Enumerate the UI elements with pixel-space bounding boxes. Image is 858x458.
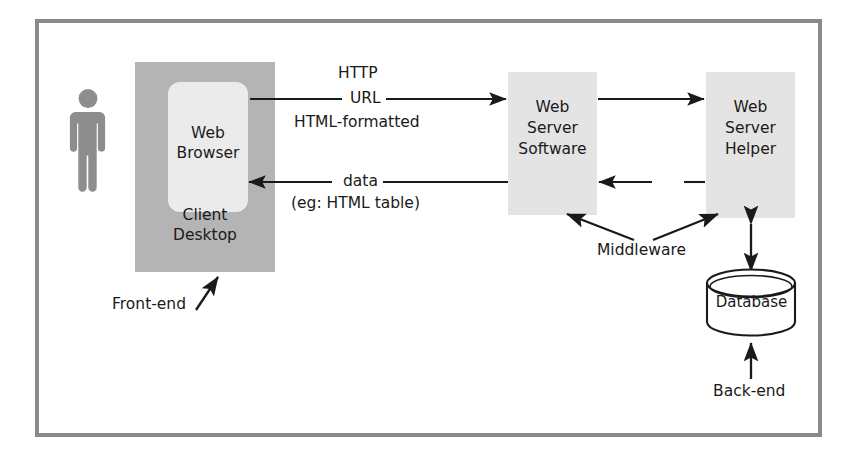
database-label: Database	[707, 293, 796, 311]
edge-label-http: HTTP	[338, 63, 378, 83]
web-server-software-line1: Web	[504, 97, 601, 118]
web-browser-label-line2: Browser	[162, 143, 254, 163]
edge-label-url: URL	[345, 88, 386, 108]
web-browser-label: Web Browser	[162, 123, 254, 164]
web-server-software-line2: Server	[504, 118, 601, 139]
client-desktop-label: Client Desktop	[135, 205, 275, 246]
edge-label-data: data	[338, 171, 383, 191]
web-server-helper-label: Web Server Helper	[702, 97, 799, 160]
annotation-back-end: Back-end	[713, 381, 785, 401]
web-server-software-label: Web Server Software	[504, 97, 601, 160]
client-desktop-label-line1: Client	[135, 205, 275, 225]
annotation-middleware: Middleware	[597, 240, 686, 260]
web-server-helper-line3: Helper	[702, 139, 799, 160]
edge-label-eg-html-table: (eg: HTML table)	[291, 193, 420, 213]
web-server-helper-line2: Server	[702, 118, 799, 139]
web-browser-label-line1: Web	[162, 123, 254, 143]
edge-label-html-formatted: HTML-formatted	[294, 112, 420, 132]
client-desktop-label-line2: Desktop	[135, 225, 275, 245]
diagram-canvas: Web Browser Client Desktop Web Server So…	[0, 0, 858, 458]
web-server-software-line3: Software	[504, 139, 601, 160]
annotation-front-end: Front-end	[112, 294, 186, 314]
web-server-helper-line1: Web	[702, 97, 799, 118]
